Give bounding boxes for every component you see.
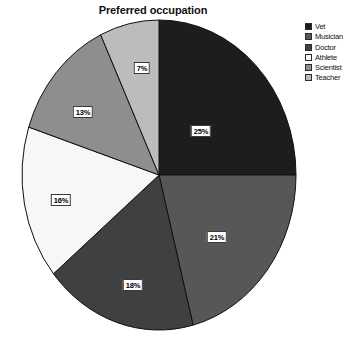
pie-value-label-teacher: 7% [134,62,150,74]
legend-item-scientist[interactable]: Scientist [305,63,359,73]
legend-item-doctor[interactable]: Doctor [305,42,359,52]
chart-title: Preferred occupation [0,4,361,17]
legend-item-label: Teacher [315,73,340,82]
pie-slice-group [22,20,296,330]
pie-value-label-vet: 25% [191,125,211,137]
pie-value-label-scientist: 13% [73,106,93,118]
legend-item-label: Musician [315,32,343,41]
legend-item-teacher[interactable]: Teacher [305,73,359,83]
legend-item-label: Doctor [315,43,336,52]
legend-item-label: Vet [315,22,325,31]
legend-swatch-icon [305,23,312,30]
pie-plot-area: 25%21%18%16%13%7% [21,19,297,331]
pie-svg [21,19,297,331]
legend-swatch-icon [305,64,312,71]
pie-chart-figure: Preferred occupation 25%21%18%16%13%7% V… [0,0,361,349]
pie-slice-vet[interactable] [159,20,296,175]
legend-swatch-icon [305,74,312,81]
pie-value-label-athlete: 16% [51,194,71,206]
legend-item-athlete[interactable]: Athlete [305,53,359,63]
legend-item-vet[interactable]: Vet [305,22,359,32]
legend-swatch-icon [305,44,312,51]
legend-item-label: Scientist [315,63,342,72]
legend-swatch-icon [305,54,312,61]
pie-value-label-doctor: 18% [123,279,143,291]
legend-item-musician[interactable]: Musician [305,32,359,42]
legend-swatch-icon [305,33,312,40]
chart-legend: VetMusicianDoctorAthleteScientistTeacher [305,22,359,83]
pie-value-label-musician: 21% [207,231,227,243]
legend-item-label: Athlete [315,53,337,62]
